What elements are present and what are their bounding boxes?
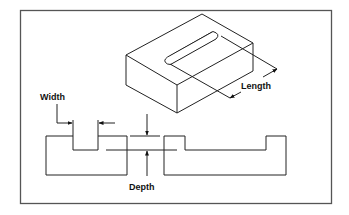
length-slot <box>185 136 266 150</box>
depth-label: Depth <box>129 182 155 192</box>
width-slot <box>73 136 98 150</box>
width-label: Width <box>40 92 65 102</box>
section-left <box>46 136 127 175</box>
length-arrow-upper <box>263 69 277 77</box>
length-arrow-lower <box>230 92 241 98</box>
section-right <box>164 136 286 175</box>
width-dimension <box>57 104 115 136</box>
slot-top <box>165 32 218 65</box>
isometric-block <box>126 14 253 113</box>
length-extension-line-near <box>170 64 230 98</box>
slot-dimension-diagram: Length Width Depth <box>0 0 349 215</box>
depth-dimension <box>106 114 177 176</box>
length-label: Length <box>241 81 271 91</box>
